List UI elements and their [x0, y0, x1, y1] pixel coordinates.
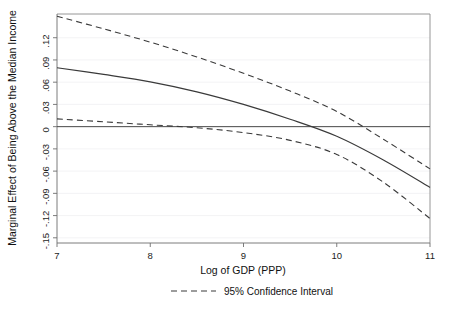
- marginal-effect-plot: .12.09.06.030-.03-.06-.09-.12-.15 789101…: [0, 0, 456, 313]
- y-axis-tick-label: -.12: [40, 211, 51, 227]
- ci-line-lower: [57, 119, 430, 219]
- y-axis-tick-label: .09: [40, 57, 51, 70]
- x-axis-tick-label: 9: [241, 250, 246, 261]
- fit-line-point-estimate: [57, 68, 430, 188]
- plot-frame: [57, 14, 430, 243]
- y-axis-title: Marginal Effect of Being Above the Media…: [6, 10, 18, 246]
- gridlines-group: [57, 38, 430, 238]
- y-axis-ticks-group: .12.09.06.030-.03-.06-.09-.12-.15: [40, 34, 57, 249]
- legend-item-ci-label: 95% Confidence Interval: [224, 286, 333, 297]
- legend: 95% Confidence Interval: [171, 286, 333, 297]
- x-axis-tick-label: 7: [54, 250, 59, 261]
- y-axis-tick-label: .03: [40, 101, 51, 114]
- y-axis-tick-label: -.03: [40, 144, 51, 160]
- y-axis-tick-label: -.15: [40, 233, 51, 249]
- x-axis-title: Log of GDP (PPP): [200, 264, 286, 276]
- y-axis-tick-label: -.09: [40, 188, 51, 204]
- y-axis-tick-label: -.06: [40, 166, 51, 182]
- x-axis-tick-label: 11: [425, 250, 435, 261]
- ci-line-upper: [57, 16, 430, 169]
- y-axis-tick-label: .12: [40, 34, 51, 47]
- x-axis-tick-label: 8: [148, 250, 153, 261]
- y-axis-tick-label: 0: [40, 127, 51, 132]
- y-axis-tick-label: .06: [40, 79, 51, 92]
- x-axis-tick-label: 10: [331, 250, 342, 261]
- chart-figure: .12.09.06.030-.03-.06-.09-.12-.15 789101…: [0, 0, 456, 313]
- x-axis-ticks-group: 7891011: [54, 243, 435, 261]
- data-series-group: [57, 16, 430, 218]
